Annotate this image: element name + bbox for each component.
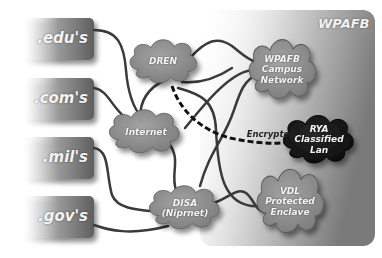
source-label-com: .com's [22,90,88,107]
source-label-edu: .edu's [22,30,88,47]
cloud-label-internet: Internet [119,127,173,137]
rya-line1: RYA [292,124,346,134]
campus-line3: Network [255,75,309,85]
source-label-gov: .gov's [22,208,88,225]
cloud-label-campus: WPAFB Campus Network [255,54,309,85]
disa-line2: (Niprnet) [158,208,212,218]
cloud-label-dren: DREN [138,56,188,66]
campus-line2: Campus [255,64,309,74]
rya-line2: Classified [292,134,346,144]
network-diagram: WPAFB .edu's .com's .mil's .gov's DREN I… [0,0,382,258]
wpafb-region-label: WPAFB [318,17,368,32]
vdl-line2: Protected [262,196,318,206]
campus-line1: WPAFB [255,54,309,64]
vdl-line3: Enclave [262,207,318,217]
cloud-label-rya: RYA Classified Lan [292,124,346,155]
vdl-line1: VDL [262,186,318,196]
rya-line3: Lan [292,145,346,155]
encrypted-label: Encrypted [246,130,296,140]
cloud-label-vdl: VDL Protected Enclave [262,186,318,217]
source-label-mil: .mil's [22,149,88,166]
cloud-label-disa: DISA (Niprnet) [158,198,212,219]
disa-line1: DISA [158,198,212,208]
